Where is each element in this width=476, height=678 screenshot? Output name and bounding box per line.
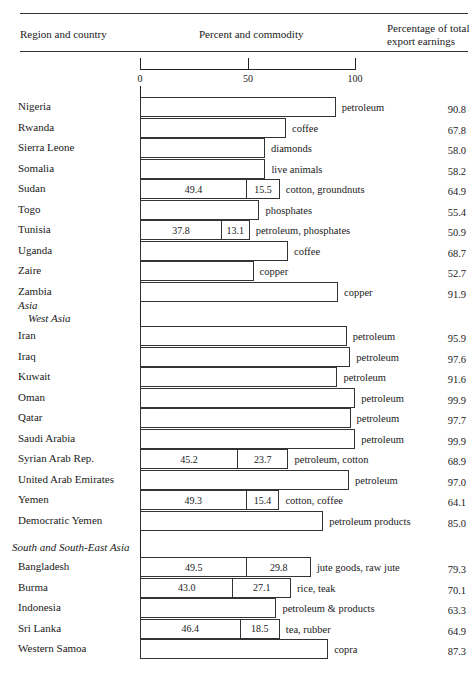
commodity-label: petroleum xyxy=(361,393,404,404)
commodity-label: petroleum xyxy=(356,352,399,363)
top-rule xyxy=(20,13,468,14)
total-export-value: 68.9 xyxy=(448,456,466,467)
chart-row: Iranpetroleum95.9 xyxy=(0,326,476,347)
commodity-label: petroleum xyxy=(361,434,404,445)
bar xyxy=(140,97,336,117)
bar xyxy=(140,429,355,449)
total-export-value: 97.6 xyxy=(448,354,466,365)
bar-segment xyxy=(141,430,354,448)
bar xyxy=(140,138,265,158)
country-label: Zambia xyxy=(18,285,52,297)
total-export-value: 99.9 xyxy=(448,395,466,406)
total-export-value: 55.4 xyxy=(448,207,466,218)
chart-row: United Arab Emiratespetroleum97.0 xyxy=(0,470,476,491)
bar xyxy=(140,408,351,428)
total-export-value: 91.9 xyxy=(448,289,466,300)
country-label: Rwanda xyxy=(18,121,54,133)
country-label: Yemen xyxy=(18,493,49,505)
chart-row: Bangladesh49.529.8jute goods, raw jute79… xyxy=(0,557,476,578)
total-export-value: 58.2 xyxy=(448,166,466,177)
commodity-label: copra xyxy=(334,644,357,655)
bar-segment xyxy=(141,471,348,489)
commodity-label: cotton, groundnuts xyxy=(286,184,365,195)
total-export-value: 63.3 xyxy=(448,605,466,616)
bar xyxy=(140,639,328,659)
total-export-value: 99.9 xyxy=(448,436,466,447)
bar-segment: 13.1 xyxy=(221,221,249,239)
commodity-label: cotton, coffee xyxy=(285,495,343,506)
header-total-export-1: Percentage of total xyxy=(387,22,469,35)
chart-row: Nigeriapetroleum90.8 xyxy=(0,97,476,118)
total-export-value: 90.8 xyxy=(448,104,466,115)
total-export-value: 52.7 xyxy=(448,268,466,279)
total-export-value: 70.1 xyxy=(448,585,466,596)
chart-row: Togophosphates55.4 xyxy=(0,200,476,221)
country-label: Western Samoa xyxy=(18,642,86,654)
total-export-value: 95.9 xyxy=(448,333,466,344)
chart-row: Omanpetroleum99.9 xyxy=(0,388,476,409)
bar xyxy=(140,598,276,618)
bar: 37.813.1 xyxy=(140,220,250,240)
bar xyxy=(140,261,254,281)
commodity-label: coffee xyxy=(292,123,318,134)
bar-segment xyxy=(141,201,258,219)
bar: 49.415.5 xyxy=(140,179,280,199)
bar xyxy=(140,511,323,531)
bar-segment xyxy=(141,160,264,178)
bar xyxy=(140,347,350,367)
total-export-value: 67.8 xyxy=(448,125,466,136)
chart-row: Kuwaitpetroleum91.6 xyxy=(0,367,476,388)
bar xyxy=(140,282,338,302)
chart-row: Saudi Arabiapetroleum99.9 xyxy=(0,429,476,450)
section-south-east-asia: South and South-East Asia xyxy=(12,541,129,553)
chart-row: Sudan49.415.5cotton, groundnuts64.9 xyxy=(0,179,476,200)
bar-segment: 45.2 xyxy=(141,450,237,468)
bar xyxy=(140,470,349,490)
chart-row: Syrian Arab Rep.45.223.7petroleum, cotto… xyxy=(0,449,476,470)
bar xyxy=(140,326,347,346)
commodity-label: petroleum xyxy=(342,102,385,113)
country-label: United Arab Emirates xyxy=(18,473,114,485)
total-export-value: 97.7 xyxy=(448,415,466,426)
bar-segment xyxy=(141,599,275,617)
chart-row: Ugandacoffee68.7 xyxy=(0,241,476,262)
country-label: Zaire xyxy=(18,264,41,276)
country-label: Uganda xyxy=(18,244,52,256)
country-label: Oman xyxy=(18,391,45,403)
total-export-value: 58.0 xyxy=(448,145,466,156)
bar xyxy=(140,159,265,179)
bar-segment: 18.5 xyxy=(240,620,279,638)
country-label: Iraq xyxy=(18,350,36,362)
total-export-value: 50.9 xyxy=(448,227,466,238)
total-export-value: 64.1 xyxy=(448,497,466,508)
country-label: Democratic Yemen xyxy=(18,514,102,526)
tick-100: 100 xyxy=(348,73,363,84)
bar: 49.529.8 xyxy=(140,557,311,577)
country-label: Sierra Leone xyxy=(18,141,75,153)
commodity-label: phosphates xyxy=(265,205,312,216)
bar-segment: 27.1 xyxy=(232,579,290,597)
total-export-value: 87.3 xyxy=(448,646,466,657)
chart-row: Democratic Yemenpetroleum products85.0 xyxy=(0,511,476,532)
bar-segment: 49.5 xyxy=(141,558,246,576)
bar-segment: 49.4 xyxy=(141,180,246,198)
commodity-label: petroleum xyxy=(357,413,400,424)
commodity-label: petroleum, cotton xyxy=(294,454,368,465)
header-bottom-rule xyxy=(20,51,468,52)
country-label: Kuwait xyxy=(18,370,50,382)
country-label: Somalia xyxy=(18,162,54,174)
total-export-value: 97.0 xyxy=(448,477,466,488)
bar-segment: 49.3 xyxy=(141,491,246,509)
bar xyxy=(140,367,337,387)
chart-row: Somalialive animals58.2 xyxy=(0,159,476,180)
bar-segment xyxy=(141,139,264,157)
bar xyxy=(140,241,288,261)
commodity-label: petroleum xyxy=(343,372,386,383)
header-region-country: Region and country xyxy=(20,28,107,41)
chart-row: Iraqpetroleum97.6 xyxy=(0,347,476,368)
chart-row: Zairecopper52.7 xyxy=(0,261,476,282)
chart-row: Western Samoacopra87.3 xyxy=(0,639,476,660)
country-label: Burma xyxy=(18,581,48,593)
header-total-export-2: export earnings xyxy=(387,35,455,48)
bar-segment xyxy=(141,640,327,658)
